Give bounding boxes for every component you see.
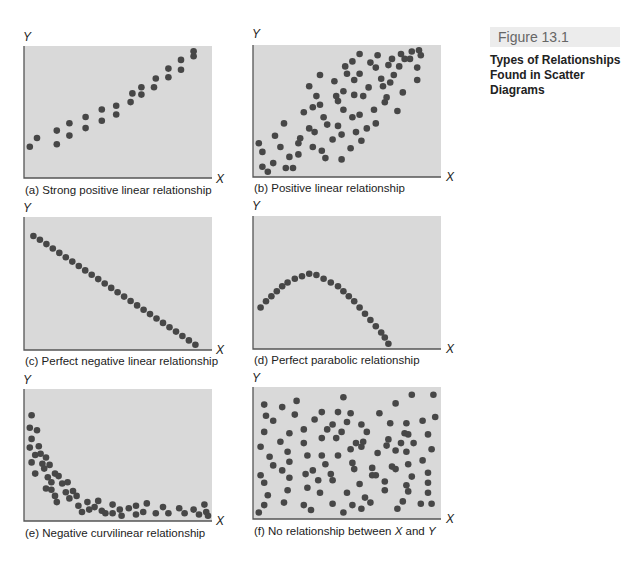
data-point [369, 465, 376, 472]
data-point [329, 501, 336, 508]
data-point [284, 449, 291, 456]
data-point [263, 413, 270, 420]
data-point [349, 460, 356, 467]
data-point [382, 478, 389, 485]
data-point [382, 487, 389, 494]
data-point [335, 409, 342, 416]
data-point [362, 494, 369, 501]
data-point [338, 429, 345, 436]
data-point [281, 499, 288, 506]
data-point [329, 477, 336, 484]
data-point [425, 470, 432, 477]
data-point [405, 461, 412, 468]
data-point [347, 410, 354, 417]
data-point [410, 440, 417, 447]
data-point [392, 400, 399, 407]
data-point [392, 466, 399, 473]
caption-f-and: and [402, 525, 428, 537]
data-point [392, 447, 399, 454]
data-point [344, 419, 351, 426]
data-point [340, 509, 347, 516]
data-point [284, 487, 291, 494]
data-point [405, 488, 412, 495]
data-point [383, 442, 390, 449]
data-point [293, 398, 300, 405]
data-point [279, 404, 286, 411]
data-point [356, 481, 363, 488]
data-point [257, 472, 264, 479]
data-point [333, 435, 340, 442]
data-point [335, 452, 342, 459]
data-point [301, 502, 308, 509]
data-point [319, 452, 326, 459]
data-point [394, 506, 401, 513]
data-point [425, 431, 432, 438]
data-point [317, 489, 324, 496]
data-point [425, 480, 432, 487]
x-axis-label: X [446, 512, 454, 526]
data-point [418, 501, 425, 508]
data-point [286, 430, 293, 437]
data-point [319, 435, 326, 442]
data-point [419, 457, 426, 464]
data-point [270, 418, 277, 425]
data-point [340, 394, 347, 401]
data-point [286, 458, 293, 465]
data-point [409, 391, 416, 398]
data-point [367, 499, 374, 506]
data-point [304, 484, 311, 491]
data-point [261, 429, 268, 436]
data-point [292, 411, 299, 418]
data-point [261, 401, 268, 408]
data-point [324, 426, 331, 433]
data-point [364, 429, 371, 436]
data-point [310, 467, 317, 474]
data-point [432, 414, 439, 421]
data-point [403, 420, 410, 427]
data-point [398, 440, 405, 447]
data-point [353, 440, 360, 447]
data-point [376, 410, 383, 417]
data-point [385, 436, 392, 443]
data-point [344, 489, 351, 496]
caption-f: (f) No relationship between X and Y [254, 525, 436, 537]
data-point [265, 492, 272, 499]
data-point [301, 426, 308, 433]
data-point [302, 471, 309, 478]
data-point [261, 502, 268, 509]
data-point [266, 453, 273, 460]
data-point [315, 477, 322, 484]
data-point [428, 501, 435, 508]
data-point [358, 506, 365, 513]
data-point [329, 421, 336, 428]
data-point [369, 472, 376, 479]
data-point [425, 489, 432, 496]
data-point [358, 444, 365, 451]
data-point [277, 439, 284, 446]
data-point [374, 450, 381, 457]
data-point [358, 421, 365, 428]
caption-f-y: Y [428, 525, 436, 537]
data-point [387, 420, 394, 427]
data-point [308, 507, 315, 514]
data-point [428, 446, 435, 453]
data-point [301, 440, 308, 447]
data-point [347, 446, 354, 453]
data-point [400, 498, 407, 505]
caption-f-prefix: (f) No relationship between [254, 525, 395, 537]
data-point [279, 467, 286, 474]
data-point [430, 391, 437, 398]
data-point [403, 482, 410, 489]
data-point [322, 461, 329, 468]
data-point [257, 444, 264, 451]
data-point [261, 480, 268, 487]
data-point [255, 509, 262, 516]
data-point [409, 473, 416, 480]
data-point [311, 416, 318, 423]
data-point [419, 418, 426, 425]
data-point [328, 471, 335, 478]
data-point [405, 431, 412, 438]
data-point [286, 475, 293, 482]
data-point [351, 466, 358, 473]
data-point [403, 449, 410, 456]
